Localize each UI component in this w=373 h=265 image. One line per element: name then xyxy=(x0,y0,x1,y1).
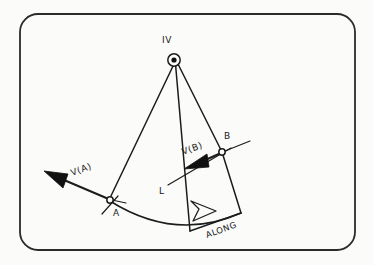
tick-at-b xyxy=(225,141,250,151)
ray-iv-to-a xyxy=(110,64,175,199)
velocity-vector-a-label: V(A) xyxy=(69,161,93,178)
point-a-label: A xyxy=(113,208,120,218)
figure-canvas: IV A B V(A) V(B) L ALONG xyxy=(0,0,373,265)
diagram-svg: IV A B V(A) V(B) L ALONG xyxy=(0,0,373,265)
velocity-vector-a-shaft xyxy=(64,180,111,200)
point-a-marker xyxy=(107,197,113,203)
swept-arc xyxy=(110,201,241,225)
velocity-vector-b-label: V(B) xyxy=(180,140,204,157)
ray-iv-to-b-extended xyxy=(178,64,241,213)
along-direction-arrowhead xyxy=(191,201,216,221)
velocity-vector-b-arrowhead xyxy=(184,154,209,169)
velocity-vector-a-arrowhead xyxy=(44,171,68,188)
apex-label: IV xyxy=(162,35,172,45)
line-l-label: L xyxy=(159,186,165,196)
point-b-label: B xyxy=(224,131,231,141)
rounded-border-frame xyxy=(20,14,355,250)
tangent-stub-a xyxy=(112,200,126,203)
point-b-marker xyxy=(219,149,225,155)
apex-iv-center-dot xyxy=(171,57,176,62)
